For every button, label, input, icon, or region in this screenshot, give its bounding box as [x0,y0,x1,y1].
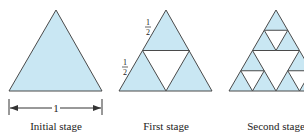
second-stage-label: Second stage [247,120,304,132]
svg-text:1: 1 [123,58,127,67]
dimension-label: 1 [53,102,59,114]
dimension-line: 1 [9,99,102,115]
first-stage-label: First stage [143,120,189,132]
half-label-top: 1 2 [145,18,151,37]
svg-text:1: 1 [146,18,150,27]
sierpinski-figure: 1 1 2 1 2 Initial stage First stage Seco… [0,0,304,138]
second-stage-triangle [229,10,304,91]
first-stage-triangle [119,10,212,91]
half-label-bottom: 1 2 [122,58,128,77]
svg-text:2: 2 [146,28,150,37]
svg-text:2: 2 [123,68,127,77]
initial-stage-label: Initial stage [30,120,82,132]
initial-stage-triangle [9,10,102,91]
